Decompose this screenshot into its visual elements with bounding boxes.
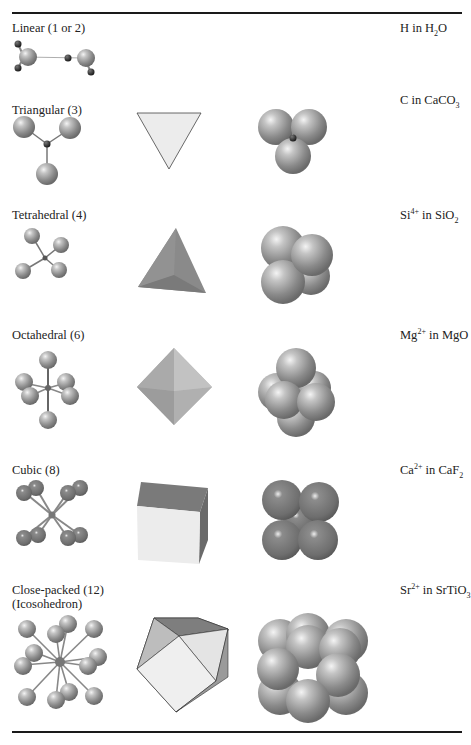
row-example: C in CaCO3 bbox=[400, 93, 460, 107]
row-label: Triangular (3) bbox=[12, 103, 82, 117]
table-row-cubic: Cubic (8) Ca2+ in CaF2 bbox=[0, 455, 471, 575]
polyhedron-cube-icon bbox=[136, 480, 216, 565]
polyhedron-icosahedron-icon bbox=[136, 617, 231, 717]
polyhedron-octahedron-icon bbox=[136, 347, 216, 429]
row-label: Tetrahedral (4) bbox=[12, 208, 86, 222]
row-label: Cubic (8) bbox=[12, 463, 60, 477]
space-filling-cubic-icon bbox=[256, 480, 342, 565]
ball-and-stick-octahedral-icon bbox=[12, 350, 87, 430]
space-filling-tetrahedral-icon bbox=[256, 225, 338, 307]
row-label: Close-packed (12) (Icosohedron) bbox=[12, 583, 104, 611]
bottom-rule bbox=[12, 731, 462, 733]
space-filling-triangular-icon bbox=[256, 110, 336, 190]
space-filling-close-packed-icon bbox=[256, 617, 361, 727]
row-example: Si4+ in SiO2 bbox=[400, 208, 458, 222]
table-row-linear: Linear (1 or 2) H in H2O bbox=[0, 0, 471, 90]
row-example: Mg2+ in MgO bbox=[400, 328, 468, 342]
ball-and-stick-linear-icon bbox=[8, 36, 98, 86]
row-label: Linear (1 or 2) bbox=[12, 21, 85, 35]
table-row-triangular: Triangular (3) C in CaCO3 bbox=[0, 90, 471, 200]
space-filling-octahedral-icon bbox=[256, 346, 338, 441]
row-example: Sr2+ in SrTiO3 bbox=[400, 583, 470, 597]
polyhedron-triangle-icon bbox=[136, 112, 206, 174]
row-example: H in H2O bbox=[400, 21, 447, 35]
row-example: Ca2+ in CaF2 bbox=[400, 463, 463, 477]
row-label: Octahedral (6) bbox=[12, 328, 85, 342]
ball-and-stick-cubic-icon bbox=[12, 480, 92, 555]
ball-and-stick-triangular-icon bbox=[10, 120, 90, 200]
ball-and-stick-close-packed-icon bbox=[12, 617, 112, 712]
ball-and-stick-tetrahedral-icon bbox=[12, 226, 82, 286]
table-row-close-packed: Close-packed (12) (Icosohedron) Sr2+ in … bbox=[0, 575, 471, 735]
table-row-tetrahedral: Tetrahedral (4) Si4+ in SiO2 bbox=[0, 200, 471, 320]
table-row-octahedral: Octahedral (6) Mg2+ in MgO bbox=[0, 320, 471, 455]
polyhedron-tetrahedron-icon bbox=[136, 227, 211, 295]
